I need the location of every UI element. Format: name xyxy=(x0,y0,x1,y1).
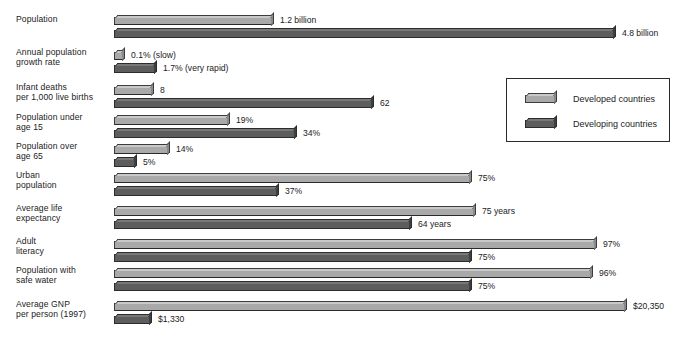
category-label-urban-population: Urban population xyxy=(16,170,112,191)
bar-value-label: 14% xyxy=(176,144,193,155)
bar-value-label: 64 years xyxy=(418,219,451,230)
category-label-population: Population xyxy=(16,14,112,24)
bar-fill xyxy=(114,208,474,216)
legend-swatch-developed-icon xyxy=(525,95,555,103)
category-label-population-over-65: Population over age 65 xyxy=(16,141,112,162)
bar-fill xyxy=(114,117,228,125)
bar-value-label: 96% xyxy=(599,268,616,279)
bar-fill xyxy=(114,221,410,229)
bar-value-label: 5% xyxy=(143,157,155,168)
category-label-infant-deaths: Infant deaths per 1,000 live births xyxy=(16,82,112,103)
comparison-bar-chart: Population Annual population growth rate… xyxy=(0,0,690,340)
bar-value-label: 1.7% (very rapid) xyxy=(163,63,228,74)
bar-fill xyxy=(114,303,625,311)
bar-fill xyxy=(114,130,295,138)
legend-label-developing: Developing countries xyxy=(573,117,657,131)
bar-fill xyxy=(114,254,470,262)
bar-value-label: 4.8 billion xyxy=(622,28,658,39)
bar-value-label: 75 years xyxy=(482,206,515,217)
bar-fill xyxy=(114,159,135,167)
category-label-adult-literacy: Adult literacy xyxy=(16,236,112,257)
bar-value-label: 8 xyxy=(160,85,165,96)
bar-fill xyxy=(114,17,272,25)
bar-fill xyxy=(114,87,152,95)
bar-value-label: 97% xyxy=(603,239,620,250)
category-label-growth-rate: Annual population growth rate xyxy=(16,47,112,68)
category-label-safe-water: Population with safe water xyxy=(16,265,112,286)
bar-fill xyxy=(114,283,470,291)
bar-fill xyxy=(114,100,372,108)
bar-value-label: 0.1% (slow) xyxy=(131,50,176,61)
bar-value-label: 75% xyxy=(478,281,495,292)
bar-fill xyxy=(114,65,155,73)
bar-fill xyxy=(114,316,150,324)
legend-label-developed: Developed countries xyxy=(573,92,655,106)
category-label-average-gnp: Average GNP per person (1997) xyxy=(16,299,112,320)
bar-value-label: 19% xyxy=(236,115,253,126)
bar-fill xyxy=(114,270,591,278)
bar-fill xyxy=(114,52,123,60)
bar-value-label: 75% xyxy=(478,252,495,263)
bar-value-label: 75% xyxy=(478,173,495,184)
bar-fill xyxy=(114,241,595,249)
legend: Developed countries Developing countries xyxy=(506,78,670,142)
bar-value-label: 34% xyxy=(303,128,320,139)
bar-value-label: 37% xyxy=(285,186,302,197)
category-label-population-under-15: Population under age 15 xyxy=(16,112,112,133)
bar-value-label: $1,330 xyxy=(158,314,184,325)
bar-value-label: $20,350 xyxy=(633,301,664,312)
bar-fill xyxy=(114,30,614,38)
bar-fill xyxy=(114,146,168,154)
legend-swatch-developing-icon xyxy=(525,120,555,128)
bar-value-label: 1.2 billion xyxy=(280,15,316,26)
bar-value-label: 62 xyxy=(380,98,390,109)
category-label-life-expectancy: Average life expectancy xyxy=(16,203,112,224)
bar-fill xyxy=(114,188,277,196)
bar-fill xyxy=(114,175,470,183)
